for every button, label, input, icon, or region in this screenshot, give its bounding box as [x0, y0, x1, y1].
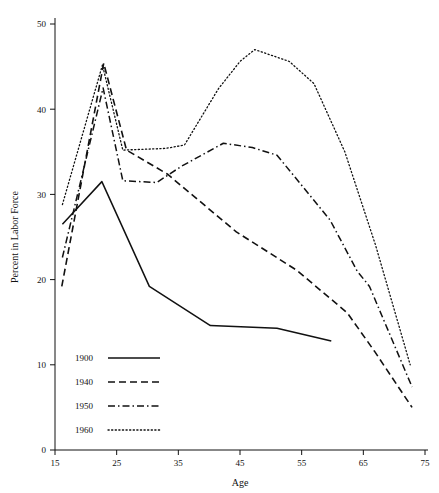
chart-figure: 0102030405015253545556575 19001940195019… [0, 0, 439, 493]
x-axis-tick-label: 15 [51, 458, 61, 468]
y-axis-tick-label: 30 [37, 190, 47, 200]
x-axis-tick-label: 55 [297, 458, 307, 468]
legend-label-1900: 1900 [75, 353, 94, 363]
labor-force-line-chart: 0102030405015253545556575 19001940195019… [0, 0, 439, 493]
x-axis-title: Age [232, 477, 249, 488]
y-axis-tick-label: 20 [37, 275, 47, 285]
legend-label-1950: 1950 [75, 401, 94, 411]
x-axis-tick-label: 45 [236, 458, 246, 468]
y-axis-tick-label: 40 [37, 105, 47, 115]
y-axis-tick-label: 10 [37, 360, 47, 370]
y-axis-title: Percent in Labor Force [9, 190, 20, 282]
x-axis-tick-label: 35 [174, 458, 184, 468]
x-axis-tick-label: 75 [421, 458, 431, 468]
y-axis-tick-label: 50 [37, 19, 47, 29]
chart-background [0, 0, 439, 493]
y-axis-tick-label: 0 [42, 445, 47, 455]
legend-label-1960: 1960 [75, 425, 94, 435]
legend-label-1940: 1940 [75, 377, 94, 387]
x-axis-tick-label: 65 [359, 458, 369, 468]
x-axis-tick-label: 25 [112, 458, 122, 468]
